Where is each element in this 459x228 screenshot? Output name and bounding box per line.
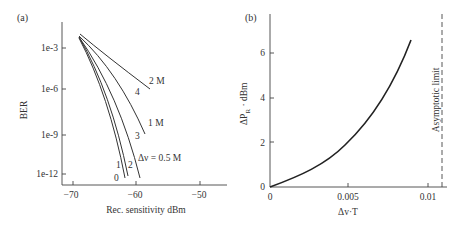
x-tick-label: 0.005 xyxy=(337,192,359,202)
y-tick-label: 1e-6 xyxy=(41,84,58,94)
y-tick-label: 1e-12 xyxy=(36,169,58,179)
y-tick-label: 2 xyxy=(260,138,265,148)
y-tick-label: 1e-3 xyxy=(41,43,58,53)
curve-label-3: 3 xyxy=(135,131,140,141)
y-tick-label: 6 xyxy=(260,48,265,58)
x-tick-label: 0 xyxy=(268,192,273,202)
curve-label-1M: 1 M xyxy=(148,118,164,128)
panel-a-x-ticks xyxy=(73,181,200,185)
y-tick-label: 4 xyxy=(260,93,265,103)
curve-label-dv: Δν = 0.5 M xyxy=(138,153,182,163)
panel-b-curve xyxy=(270,40,411,187)
panel-a-y-axis-title: BER xyxy=(19,100,29,119)
x-tick-label: −70 xyxy=(64,190,79,200)
panel-b-label: (b) xyxy=(245,12,257,24)
curve-label-4: 4 xyxy=(135,87,140,97)
panel-b: (b) 0 2 4 6 0 0.005 0.01 Δv·T ΔPR · dBm … xyxy=(239,12,447,217)
panel-a: (a) 1e-3 1e-6 1e-9 1e-12 −70 −60 −50 Rec… xyxy=(17,12,227,215)
panel-a-y-ticks xyxy=(62,48,66,174)
panel-b-y-axis-title: ΔPR · dBm xyxy=(239,82,252,125)
figure: (a) 1e-3 1e-6 1e-9 1e-12 −70 −60 −50 Rec… xyxy=(0,0,459,228)
curve-label-2M: 2 M xyxy=(149,76,165,86)
y-tick-label: 1e-9 xyxy=(41,130,58,140)
curve-label-1: 1 xyxy=(116,160,121,170)
y-tick-label: 0 xyxy=(260,182,265,192)
curve-0 xyxy=(79,38,125,178)
panel-a-label: (a) xyxy=(17,12,28,24)
curve-label-2: 2 xyxy=(128,160,133,170)
x-tick-label: −50 xyxy=(192,190,207,200)
curve-label-0: 0 xyxy=(114,173,119,183)
panel-a-x-axis-title: Rec. sensitivity dBm xyxy=(106,205,186,215)
curve-1M xyxy=(79,36,145,134)
x-tick-label: 0.01 xyxy=(420,192,437,202)
panel-b-y-ticks xyxy=(270,53,274,142)
x-tick-label: −60 xyxy=(128,190,143,200)
panel-b-x-axis-title: Δv·T xyxy=(338,207,358,217)
panel-b-x-ticks xyxy=(348,183,428,187)
asymptote-label: Asymptotic limit xyxy=(431,67,441,132)
